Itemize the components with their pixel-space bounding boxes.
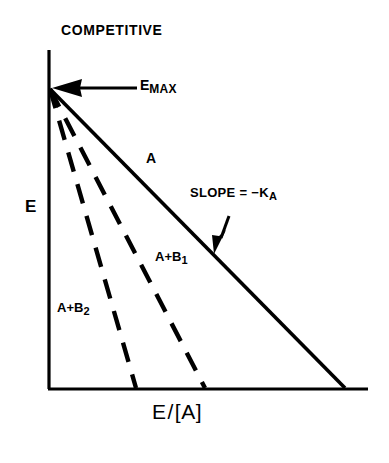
slope-text: SLOPE = −K (190, 185, 269, 200)
b2-subscript: 2 (83, 305, 89, 317)
curve-label-a-plus-b2: A+B2 (57, 301, 90, 314)
emax-annotation-label: EMAX (140, 78, 177, 92)
plot-canvas (0, 0, 389, 463)
competitive-inhibition-figure: COMPETITIVE EMAX SLOPE = −KA A A+B1 A+B2… (0, 0, 389, 463)
curve-label-a-plus-b1: A+B1 (155, 250, 188, 263)
x-axis-numerator: E (152, 400, 167, 423)
x-axis-label: E/[A] (152, 401, 202, 422)
b1-subscript: 1 (181, 254, 187, 266)
series-line-a-plus-b1 (50, 89, 205, 388)
series-line-a (50, 89, 345, 388)
emax-base: E (140, 77, 149, 93)
x-axis-denominator: [A] (175, 400, 202, 423)
slope-annotation-label: SLOPE = −KA (190, 186, 277, 199)
x-axis-slash: / (167, 400, 175, 423)
curve-label-a: A (146, 151, 156, 165)
b2-base: A+B (57, 300, 83, 315)
b1-base: A+B (155, 249, 181, 264)
slope-arrow-head (212, 230, 226, 254)
y-axis-label: E (25, 198, 36, 215)
slope-subscript: A (269, 190, 277, 202)
emax-subscript: MAX (149, 82, 176, 96)
page-title: COMPETITIVE (61, 23, 163, 37)
